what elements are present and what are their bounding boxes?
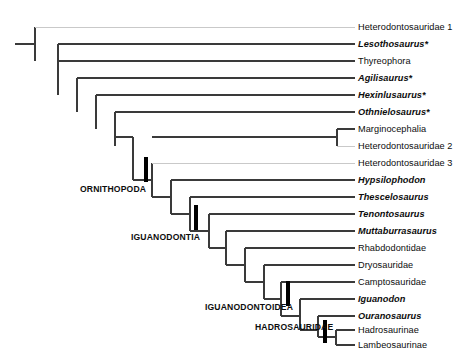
taxon-label-tenontosaurus: Tenontosaurus: [358, 209, 425, 219]
taxon-label-othnielosaurus: Othnielosaurus*: [358, 107, 430, 117]
clade-label-hadrosauridae: HADROSAURIDAE: [255, 323, 333, 332]
taxon-label-thescelosaurus: Thescelosaurus: [358, 192, 429, 202]
taxon-label-heterodontosauridae1: Heterodontosauridae 1: [358, 22, 453, 32]
taxon-label-lesothosaurus: Lesothosaurus*: [358, 39, 428, 49]
taxon-label-ouranosaurus: Ouranosaurus: [358, 311, 421, 321]
clade-label-iguanodontia: IGUANODONTIA: [131, 233, 200, 242]
taxon-label-lambeosaurinae: Lambeosaurinae: [358, 340, 427, 350]
taxon-label-heterodontosauridae3: Heterodontosauridae 3: [358, 158, 453, 168]
taxon-label-rhabdodontidae: Rhabdodontidae: [358, 243, 426, 253]
taxon-label-hexinlusaurus: Hexinlusaurus*: [358, 90, 426, 100]
taxon-label-camptosauridae: Camptosauridae: [358, 277, 426, 287]
taxon-label-marginocephalia: Marginocephalia: [358, 124, 426, 134]
taxon-label-thyreophora: Thyreophora: [358, 56, 411, 66]
clade-label-iguanodontoidea: IGUANODONTOIDEA: [205, 303, 293, 312]
taxon-label-hadrosaurinae: Hadrosaurinae: [358, 325, 419, 335]
cladogram-figure: Heterodontosauridae 1Lesothosaurus*Thyre…: [0, 0, 476, 351]
taxon-label-dryosauridae: Dryosauridae: [358, 260, 413, 270]
taxon-label-agilisaurus: Agilisaurus*: [358, 73, 412, 83]
clade-node-markers: [146, 157, 325, 343]
taxon-label-heterodontosauridae2: Heterodontosauridae 2: [358, 141, 453, 151]
taxon-label-hypsilophodon: Hypsilophodon: [358, 175, 426, 185]
tree-branch-lines: [15, 27, 355, 345]
taxon-label-iguanodon: Iguanodon: [358, 294, 405, 304]
taxon-label-muttaburrasaurus: Muttaburrasaurus: [358, 226, 437, 236]
clade-label-ornithopoda: ORNITHOPODA: [80, 185, 146, 194]
